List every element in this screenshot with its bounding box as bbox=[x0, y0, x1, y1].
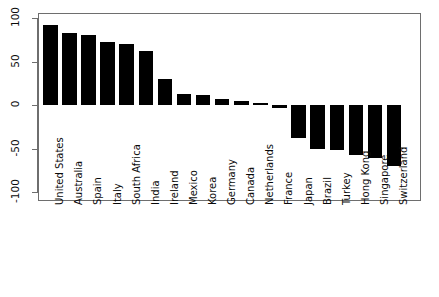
y-tick-label: 50 bbox=[9, 44, 21, 78]
bar bbox=[253, 103, 268, 105]
x-tick-label: Mexico bbox=[188, 170, 199, 205]
x-tick-label: Ireland bbox=[169, 170, 180, 205]
x-tick-label: India bbox=[150, 180, 161, 205]
bar bbox=[43, 25, 58, 105]
x-axis-labels: United StatesAustraliaSpainItalySouth Af… bbox=[38, 203, 421, 297]
x-tick-label: Germany bbox=[226, 159, 237, 205]
bar bbox=[215, 99, 230, 105]
bar bbox=[62, 33, 77, 105]
x-tick-label: Korea bbox=[207, 177, 218, 205]
bar bbox=[100, 42, 115, 105]
bar bbox=[272, 105, 287, 108]
bar bbox=[139, 51, 154, 105]
bar bbox=[291, 105, 306, 138]
y-tick-mark bbox=[32, 105, 37, 106]
bar bbox=[234, 101, 249, 105]
x-tick-label: France bbox=[283, 172, 294, 205]
bar bbox=[177, 94, 192, 105]
x-tick-label: Australia bbox=[73, 161, 84, 205]
x-tick-label: South Africa bbox=[131, 144, 142, 205]
y-tick-label: -100 bbox=[9, 174, 21, 208]
y-tick-label: 100 bbox=[9, 0, 21, 34]
x-tick-label: Netherlands bbox=[264, 144, 275, 205]
x-tick-label: Turkey bbox=[341, 172, 352, 205]
bar-chart: 100500-50-100 United StatesAustraliaSpai… bbox=[0, 0, 439, 297]
x-tick-label: Italy bbox=[112, 183, 123, 205]
y-tick-label: 0 bbox=[9, 87, 21, 121]
y-tick-mark bbox=[32, 62, 37, 63]
bar bbox=[196, 95, 211, 105]
x-tick-label: United States bbox=[54, 137, 65, 205]
y-axis-ticks: 100500-50-100 bbox=[0, 0, 37, 297]
y-tick-mark bbox=[32, 192, 37, 193]
x-tick-label: Singapore bbox=[379, 155, 390, 205]
bar bbox=[310, 105, 325, 149]
x-tick-label: Spain bbox=[92, 177, 103, 205]
bar bbox=[158, 79, 173, 105]
bar bbox=[81, 35, 96, 105]
y-tick-mark bbox=[32, 149, 37, 150]
x-tick-label: Switzerland bbox=[398, 147, 409, 205]
bar bbox=[330, 105, 345, 150]
y-tick-mark bbox=[32, 18, 37, 19]
x-tick-label: Canada bbox=[245, 167, 256, 205]
y-tick-label: -50 bbox=[9, 131, 21, 165]
bar bbox=[119, 44, 134, 105]
bar bbox=[349, 105, 364, 155]
x-tick-label: Brazil bbox=[322, 177, 333, 205]
x-tick-label: Hong Kong bbox=[360, 151, 371, 205]
x-tick-label: Japan bbox=[303, 177, 314, 205]
